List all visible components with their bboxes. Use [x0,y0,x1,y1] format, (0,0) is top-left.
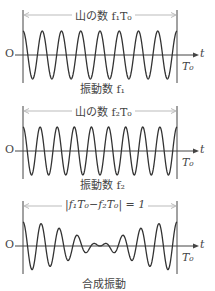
axis-arrow-icon [193,244,199,249]
panel1-top-label: 山の数 f₁T₀ [72,7,135,23]
panel3-T0-label: T₀ [182,251,194,264]
panel1-origin-label: O [5,47,14,60]
panel2-t-label: t [200,143,204,156]
panel2-top-label: 山の数 f₂T₀ [72,103,135,119]
axis-arrow-icon [193,53,199,58]
panel2-bottom-label: 振動数 f₂ [80,176,125,192]
panel3-origin-label: O [5,238,14,251]
panel3-bottom-label: 合成振動 [82,275,126,291]
panel1-bottom-label: 振動数 f₁ [80,80,125,96]
panel1-t-label: t [200,47,204,60]
panel2-origin-label: O [5,143,14,156]
panel2-T0-label: T₀ [182,156,194,169]
wave-curve-beat [23,222,177,270]
axis-arrow-icon [193,149,199,154]
panel1-T0-label: T₀ [182,60,194,73]
panel3-t-label: t [200,238,204,251]
beat-diagram [0,0,215,291]
panel3-top-label: |f₁T₀−f₂T₀| = 1 [62,198,148,211]
